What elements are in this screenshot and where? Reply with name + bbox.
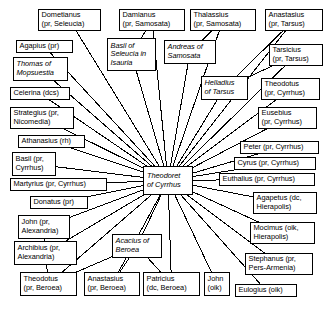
node-line: (dc, Beroea)	[147, 284, 198, 293]
edge-patricius-to-theodoret	[168, 195, 171, 272]
node-cyrus[interactable]: Cyrus (pr, Cyrrhus)	[234, 157, 316, 170]
node-label-mocimus: Mocimus (oik,Hierapolis)	[254, 224, 313, 241]
edge-basil-cyrrhus-to-theodoret	[56, 167, 143, 178]
node-label-eulogius: Eulogius (oik)	[239, 286, 295, 295]
edge-agapetus-to-theodoret	[193, 185, 253, 197]
node-label-martyrius: Martyrius (pr, Cyrrhus)	[14, 180, 105, 189]
node-basil-cyrrhus[interactable]: Basil (pr,Cyrrhus)	[12, 152, 56, 176]
node-peter[interactable]: Peter (pr, Cyrrhus)	[240, 141, 319, 154]
node-label-theodotus-cyrrhus: Theodotus(pr, Cyrrhus)	[265, 80, 318, 97]
edge-andreas-samosata-to-theodoret	[170, 64, 187, 166]
node-line: Beroea	[116, 246, 160, 255]
node-john-alexandria[interactable]: John (pr,Alexandria)	[18, 215, 70, 239]
node-andreas-samosata[interactable]: Andreas ofSamosata	[164, 40, 216, 64]
node-eusebius[interactable]: Eusebius(pr, Cyrrhus)	[258, 107, 317, 129]
node-anastasius-beroea[interactable]: Anastasius(pr, Beroea)	[84, 272, 140, 296]
node-label-john-alexandria: John (pr,Alexandria)	[22, 218, 68, 235]
node-label-strategius: Strategius (pr,Nicomedia)	[14, 109, 72, 126]
node-line: (pr, Tarsus)	[269, 20, 321, 29]
network-diagram: Theodoretof CyrrhusDometianus(pr, Seleuc…	[0, 0, 333, 310]
node-label-agapetus: Agapetus (dc,Hierapolis)	[257, 194, 315, 211]
edge-basil-seleucia-to-theodoret	[136, 71, 164, 166]
node-line: Eulogius (oik)	[239, 286, 295, 295]
node-label-cyrus: Cyrus (pr, Cyrrhus)	[238, 159, 314, 168]
node-label-basil-seleucia: Basil ofSeleucia inIsauria	[111, 42, 154, 68]
node-agapetus[interactable]: Agapetus (dc,Hierapolis)	[253, 192, 317, 214]
node-label-stephanus: Stephanus (pr,Pers-Armenia)	[249, 255, 311, 272]
node-thalassius[interactable]: Thalassius(pr, Samosata)	[190, 9, 256, 31]
edge-acacius-beroea-to-anastasius-beroea	[120, 258, 129, 272]
node-mocimus[interactable]: Mocimus (oik,Hierapolis)	[250, 222, 315, 244]
node-label-dometianus: Dometianus(pr, Seleucia)	[42, 11, 99, 28]
node-label-damianus: Damianus(pr, Samosata)	[123, 11, 183, 28]
node-line: (pr, Cyrrhus)	[265, 89, 318, 98]
node-eulogius[interactable]: Eulogius (oik)	[235, 284, 297, 297]
node-stephanus[interactable]: Stephanus (pr,Pers-Armenia)	[245, 253, 313, 275]
node-basil-seleucia[interactable]: Basil ofSeleucia inIsauria	[107, 38, 156, 71]
node-line: Agapius (pr)	[20, 42, 71, 51]
node-strategius[interactable]: Strategius (pr,Nicomedia)	[10, 107, 74, 129]
edge-martyrius-to-theodoret	[107, 181, 143, 182]
node-line: (pr, Cyrrhus)	[262, 118, 315, 127]
node-line: Alexandria)	[18, 253, 75, 262]
node-label-euthalius: Euthalius (pr, Cyrrhus)	[223, 175, 313, 184]
node-dometianus[interactable]: Dometianus(pr, Seleucia)	[38, 9, 101, 31]
node-line: (pr, Beroea)	[24, 284, 75, 293]
node-tarsicius[interactable]: Tarsicius(pr, Tarsus)	[269, 44, 323, 66]
edge-archibius-to-theodotus-beroea	[47, 265, 48, 272]
node-label-archibius: Archibius (pr,Alexandria)	[18, 244, 75, 261]
node-line: Donatus (pr)	[34, 198, 86, 207]
edge-acacius-beroea-to-patricius	[148, 258, 161, 272]
node-label-agapius: Agapius (pr)	[20, 42, 71, 51]
node-line: (pr, Tarsus)	[273, 55, 321, 64]
node-martyrius[interactable]: Martyrius (pr, Cyrrhus)	[10, 178, 107, 191]
node-agapius[interactable]: Agapius (pr)	[16, 40, 73, 53]
node-label-helladius-tarsus: Helladiusof Tarsus	[205, 79, 246, 96]
node-label-andreas-samosata: Andreas ofSamosata	[168, 43, 214, 60]
node-label-patricius: Patricius(dc, Beroea)	[147, 275, 198, 292]
node-euthalius[interactable]: Euthalius (pr, Cyrrhus)	[219, 173, 315, 186]
node-theodotus-cyrrhus[interactable]: Theodotus(pr, Cyrrhus)	[261, 78, 320, 100]
node-line: (pr, Beroea)	[88, 284, 138, 293]
node-anastasius-tarsus[interactable]: Anastasius(pr, Tarsus)	[265, 9, 323, 31]
node-line: Cyrrhus)	[16, 164, 54, 173]
node-label-acacius-beroea: Acacius ofBeroea	[116, 237, 160, 254]
node-thomas-mopsuestia[interactable]: Thomas ofMopsuestia	[13, 57, 68, 81]
node-label-athanasius: Athanasius (rh)	[22, 137, 83, 146]
node-line: (pr, Samosata)	[123, 20, 183, 29]
node-theodoret[interactable]: Theodoretof Cyrrhus	[143, 166, 193, 195]
edge-tarsicius-to-helladius-tarsus	[248, 66, 272, 77]
node-label-john-oik: John(oik)	[208, 275, 228, 292]
node-line: Peter (pr, Cyrrhus)	[244, 143, 317, 152]
edge-acacius-beroea-to-theodoret	[143, 195, 161, 234]
edge-thalassius-to-andreas-samosata	[202, 31, 211, 40]
node-line: Athanasius (rh)	[22, 137, 83, 146]
node-line: Pers-Armenia)	[249, 264, 311, 273]
node-label-basil-cyrrhus: Basil (pr,Cyrrhus)	[16, 155, 54, 172]
node-athanasius[interactable]: Athanasius (rh)	[18, 135, 85, 148]
node-line: (oik)	[208, 284, 228, 293]
edge-john-oik-to-theodoret	[175, 195, 211, 272]
node-line: Hierapolis)	[254, 233, 313, 242]
node-john-oik[interactable]: John(oik)	[204, 272, 230, 296]
node-helladius-tarsus[interactable]: Helladiusof Tarsus	[201, 76, 248, 100]
node-celerina[interactable]: Celerina (dcs)	[10, 87, 70, 100]
node-line: of Tarsus	[205, 88, 246, 97]
edge-mocimus-to-theodoret	[193, 192, 259, 222]
node-patricius[interactable]: Patricius(dc, Beroea)	[143, 272, 200, 296]
node-line: Mopsuestia	[17, 69, 66, 78]
node-line: of Cyrrhus	[147, 181, 190, 190]
node-label-theodotus-beroea: Theodotus(pr, Beroea)	[24, 275, 75, 292]
node-line: Celerina (dcs)	[14, 89, 68, 98]
node-archibius[interactable]: Archibius (pr,Alexandria)	[14, 241, 77, 265]
node-acacius-beroea[interactable]: Acacius ofBeroea	[112, 234, 162, 258]
node-label-anastasius-beroea: Anastasius(pr, Beroea)	[88, 275, 138, 292]
node-damianus[interactable]: Damianus(pr, Samosata)	[119, 9, 185, 31]
node-donatus[interactable]: Donatus (pr)	[30, 196, 88, 209]
node-label-celerina: Celerina (dcs)	[14, 89, 68, 98]
node-line: Samosata	[168, 52, 214, 61]
node-label-donatus: Donatus (pr)	[34, 198, 86, 207]
node-theodotus-beroea[interactable]: Theodotus(pr, Beroea)	[20, 272, 77, 296]
node-line: Hierapolis)	[257, 203, 315, 212]
edge-athanasius-to-theodoret	[71, 148, 143, 172]
